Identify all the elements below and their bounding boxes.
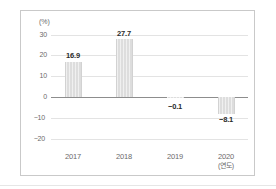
- y-tick-label-30: 30: [23, 31, 47, 39]
- x-tick-label-2020-year: 2020: [218, 152, 234, 161]
- bar-value-label-2019: −0.1: [153, 102, 197, 111]
- x-axis-unit-label: (연도): [198, 161, 254, 170]
- page-bottom-divider: [0, 185, 276, 186]
- y-tick-label-20: 20: [23, 51, 47, 59]
- x-tick-label-2020: 2020 (연도): [198, 152, 254, 170]
- y-axis-unit-label: (%): [39, 18, 50, 26]
- x-tick-label-2018: 2018: [96, 152, 152, 161]
- bar-2018: [116, 39, 133, 97]
- bar-2017: [65, 62, 82, 97]
- gridline-30: [51, 35, 248, 36]
- x-tick-label-2019: 2019: [147, 152, 203, 161]
- chart-frame: (%) 30 20 10 0 −10 −20 16.9 27.7 −0.: [20, 10, 255, 176]
- plot-area: (%) 30 20 10 0 −10 −20 16.9 27.7 −0.: [21, 11, 256, 177]
- y-tick-label-neg10: −10: [21, 114, 45, 122]
- bar-2020: [218, 97, 235, 114]
- bar-2019: [167, 97, 184, 98]
- y-tick-label-10: 10: [23, 72, 47, 80]
- y-tick-label-0: 0: [23, 93, 47, 101]
- gridline-neg20: [51, 139, 248, 140]
- bar-value-label-2020: −8.1: [204, 115, 248, 124]
- x-tick-label-2017: 2017: [45, 152, 101, 161]
- y-tick-label-neg20: −20: [21, 135, 45, 143]
- chart-page: (%) 30 20 10 0 −10 −20 16.9 27.7 −0.: [0, 0, 276, 189]
- bar-value-label-2018: 27.7: [102, 29, 146, 38]
- bar-value-label-2017: 16.9: [51, 51, 95, 60]
